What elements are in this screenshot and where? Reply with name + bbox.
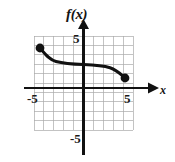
- x-axis-arrow-icon: [148, 83, 159, 94]
- left-endpoint-dot: [36, 44, 45, 53]
- y-axis-tick-label-negative-5: -5: [70, 132, 81, 145]
- graph-screenshot: f(x) x 5 -5 5 -5: [0, 0, 175, 162]
- x-axis-label: x: [160, 84, 166, 96]
- right-endpoint-dot: [121, 74, 130, 83]
- x-axis-tick-label-negative-5: -5: [27, 92, 38, 105]
- coordinate-plane: [0, 0, 175, 162]
- y-axis-tick-label-positive-5: 5: [73, 32, 80, 45]
- x-axis-tick-label-positive-5: 5: [124, 92, 131, 105]
- function-label: f(x): [66, 7, 87, 22]
